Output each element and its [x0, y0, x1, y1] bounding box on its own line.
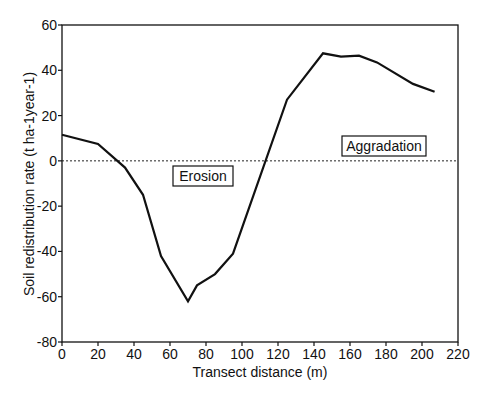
y-tick-label: -60 [37, 289, 57, 305]
x-tick-label: 220 [446, 346, 470, 362]
data-series [62, 53, 435, 301]
x-tick-label: 80 [198, 346, 214, 362]
x-tick-label: 140 [302, 346, 326, 362]
x-tick-label: 160 [338, 346, 362, 362]
y-tick-label: -40 [37, 243, 57, 259]
y-axis-label: Soil redistribution rate (t ha-1year-1) [21, 72, 37, 296]
aggradation-label-text: Aggradation [346, 138, 422, 154]
x-tick-label: 100 [230, 346, 254, 362]
x-tick-label: 40 [126, 346, 142, 362]
x-tick-label: 120 [266, 346, 290, 362]
plot-frame [62, 25, 458, 342]
x-tick-label: 200 [410, 346, 434, 362]
erosion-label-text: Erosion [179, 168, 226, 184]
chart-canvas: -80-60-40-200204060 02040608010012014016… [0, 0, 489, 401]
y-axis-ticks: -80-60-40-200204060 [37, 17, 62, 350]
y-tick-label: -20 [37, 198, 57, 214]
y-tick-label: 40 [41, 62, 57, 78]
series-line [62, 53, 435, 301]
y-tick-label: 60 [41, 17, 57, 33]
plot-border [62, 25, 458, 342]
x-tick-label: 0 [58, 346, 66, 362]
x-tick-label: 60 [162, 346, 178, 362]
y-tick-label: 0 [49, 153, 57, 169]
erosion-label: Erosion [173, 166, 233, 186]
y-tick-label: 20 [41, 108, 57, 124]
y-tick-label: -80 [37, 334, 57, 350]
x-axis-label: Transect distance (m) [193, 364, 328, 380]
x-tick-label: 20 [90, 346, 106, 362]
x-axis-ticks: 020406080100120140160180200220 [58, 342, 470, 362]
chart: -80-60-40-200204060 02040608010012014016… [0, 0, 489, 401]
x-tick-label: 180 [374, 346, 398, 362]
aggradation-label: Aggradation [342, 136, 426, 156]
